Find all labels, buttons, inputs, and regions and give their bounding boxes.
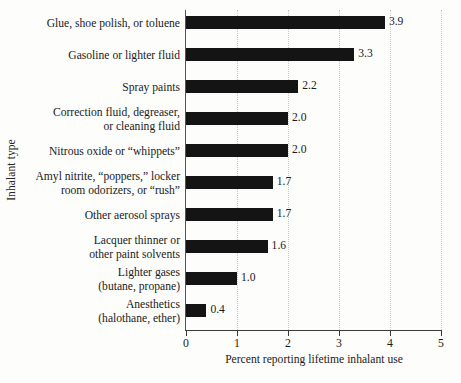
bar-value-label: 2.0: [292, 143, 307, 156]
bar-value-label: 1.7: [277, 207, 292, 220]
bar: [186, 112, 288, 125]
bar-value-label: 2.2: [302, 79, 317, 92]
category-label: Anesthetics (halothane, ether): [20, 298, 180, 324]
x-axis-title: Percent reporting lifetime inhalant use: [186, 353, 442, 366]
bar: [186, 48, 354, 61]
x-tick-label: 1: [225, 336, 249, 351]
bar: [186, 304, 206, 317]
bar-value-label: 1.7: [277, 175, 292, 188]
gridline: [390, 10, 391, 330]
y-axis-title-text: Inhalant type: [5, 139, 17, 201]
x-tick-label: 4: [378, 336, 402, 351]
category-label: Glue, shoe polish, or toluene: [20, 17, 180, 30]
gridline: [441, 10, 442, 330]
bar-value-label: 1.0: [241, 271, 256, 284]
x-tick-label: 0: [174, 336, 198, 351]
category-label: Amyl nitrite, “poppers,” locker room odo…: [20, 170, 180, 196]
category-label: Lacquer thinner or other paint solvents: [20, 234, 180, 260]
bar-value-label: 1.6: [272, 239, 287, 252]
bar: [186, 16, 385, 29]
category-label: Other aerosol sprays: [20, 209, 180, 222]
x-tick-label: 5: [429, 336, 453, 351]
y-axis-title: Inhalant type: [0, 0, 22, 340]
bar: [186, 176, 273, 189]
category-axis-labels: Glue, shoe polish, or tolueneGasoline or…: [22, 10, 184, 330]
bar-value-label: 2.0: [292, 111, 307, 124]
bar-value-label: 3.3: [358, 47, 373, 60]
bar-chart-figure: Inhalant type Glue, shoe polish, or tolu…: [0, 0, 461, 383]
bar: [186, 80, 298, 93]
x-axis-ticks: 012345: [186, 330, 442, 350]
category-label: Spray paints: [20, 81, 180, 94]
bar: [186, 240, 268, 253]
plot-area: 3.93.32.22.02.01.71.71.61.00.4: [186, 10, 441, 330]
category-label: Gasoline or lighter fluid: [20, 49, 180, 62]
bar-value-label: 3.9: [389, 15, 404, 28]
bar-value-label: 0.4: [210, 303, 225, 316]
bar: [186, 272, 237, 285]
category-label: Correction fluid, degreaser, or cleaning…: [20, 106, 180, 132]
x-tick-label: 3: [327, 336, 351, 351]
category-label: Nitrous oxide or “whippets”: [20, 145, 180, 158]
bar: [186, 208, 273, 221]
bar: [186, 144, 288, 157]
category-label: Lighter gases (butane, propane): [20, 266, 180, 292]
x-tick-label: 2: [276, 336, 300, 351]
